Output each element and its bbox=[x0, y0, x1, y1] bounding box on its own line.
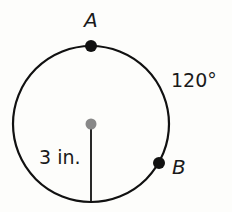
arc-measure-label: 120° bbox=[171, 69, 217, 91]
center-point bbox=[86, 119, 97, 130]
point-b bbox=[153, 157, 165, 169]
point-a-label: A bbox=[84, 8, 98, 32]
circle-diagram bbox=[0, 0, 232, 212]
diagram-canvas: A B 120° 3 in. bbox=[0, 0, 232, 212]
point-a bbox=[85, 40, 97, 52]
point-b-label: B bbox=[172, 155, 186, 179]
radius-label: 3 in. bbox=[39, 146, 81, 168]
